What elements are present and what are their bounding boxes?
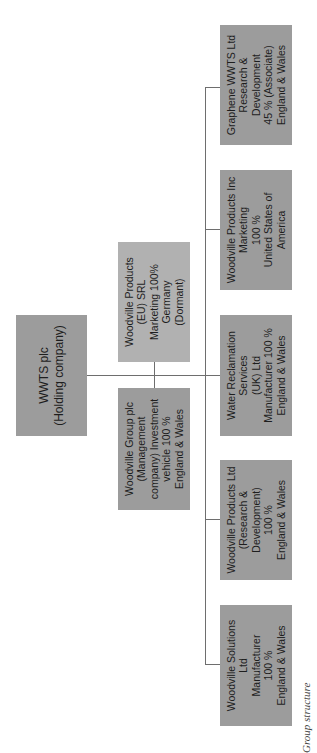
node-line: Services — [237, 355, 250, 395]
node-line: Water Reclamation — [225, 331, 238, 420]
connector-spine — [205, 87, 206, 665]
node-line: Marketing — [237, 207, 250, 253]
node-woodville-products-inc: Woodville Products Inc Marketing 100 % U… — [220, 170, 292, 290]
node-line: England & Wales — [275, 625, 288, 705]
node-line: Marketing 100% — [148, 264, 161, 340]
node-water-reclamation-services: Water Reclamation Services (UK) Ltd Manu… — [220, 315, 292, 436]
node-role: (Holding company) — [52, 325, 67, 426]
node-line: Graphene WWTS Ltd — [225, 35, 238, 135]
node-line: Woodville Group plc — [123, 402, 136, 496]
connector-sub-2 — [205, 519, 220, 520]
node-line: (EU) SRL — [135, 280, 148, 325]
node-line: England & Wales — [275, 45, 288, 125]
figure-caption: Group structure — [300, 683, 312, 753]
connector-sub-5 — [205, 87, 220, 88]
node-wwts-plc: WWTS plc (Holding company) — [16, 315, 87, 436]
node-line: Manufacturer 100 % — [262, 328, 275, 423]
connector-sub-1 — [205, 664, 220, 665]
node-line: Woodville Products Ltd — [225, 466, 238, 573]
node-line: England & Wales — [275, 335, 288, 415]
node-line: England & Wales — [173, 409, 186, 489]
connector-sub-3 — [205, 375, 220, 376]
node-line: company) Investment — [148, 399, 161, 499]
node-line: Woodville Products — [123, 257, 136, 347]
node-line: America — [275, 211, 288, 250]
node-line: Woodville Products Inc — [225, 177, 238, 284]
connector-intermediate-link — [154, 362, 155, 388]
node-line: 45 % (Associate) — [262, 45, 275, 124]
node-woodville-products-eu-srl: Woodville Products (EU) SRL Marketing 10… — [118, 242, 190, 362]
org-chart: WWTS plc (Holding company) Woodville Gro… — [0, 0, 317, 753]
node-line: Development — [250, 54, 263, 116]
node-line: vehicle 100 % — [160, 416, 173, 481]
node-line: (UK) Ltd — [250, 356, 263, 395]
node-line: 100 % — [262, 505, 275, 535]
node-line: 100 % — [262, 651, 275, 681]
node-line: Ltd — [237, 658, 250, 673]
node-woodville-products-ltd: Woodville Products Ltd (Research & Devel… — [220, 460, 292, 580]
node-line: Research & — [237, 58, 250, 113]
connector-root-trunk — [87, 375, 205, 376]
node-line: (Dormant) — [173, 278, 186, 325]
node-woodville-group-plc: Woodville Group plc (Management company)… — [118, 388, 190, 510]
node-line: 100 % — [250, 215, 263, 245]
node-line: Woodville Solutions — [225, 620, 238, 711]
node-line: Germany — [160, 280, 173, 323]
node-line: Development) — [250, 487, 263, 552]
connector-sub-4 — [205, 229, 220, 230]
node-line: Manufacturer — [250, 635, 263, 697]
node-graphene-wwts-ltd: Graphene WWTS Ltd Research & Development… — [220, 25, 292, 145]
node-woodville-solutions-ltd: Woodville Solutions Ltd Manufacturer 100… — [220, 605, 292, 726]
node-line: England & Wales — [275, 480, 288, 560]
node-line: (Management — [135, 417, 148, 482]
node-line: United States of — [262, 193, 275, 268]
node-line: (Research & — [237, 491, 250, 549]
node-name: WWTS plc — [37, 347, 52, 404]
